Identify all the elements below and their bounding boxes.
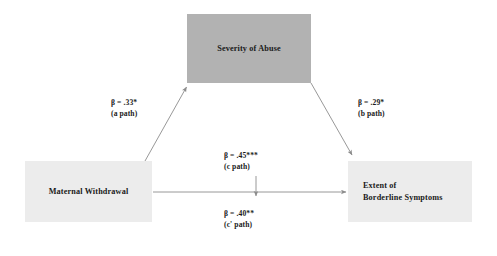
path-b-coefficient: β = .29* xyxy=(358,97,385,108)
mediation-diagram: Severity of Abuse Maternal Withdrawal Ex… xyxy=(0,0,497,256)
path-c-name: (c path) xyxy=(224,161,258,172)
arrow-a-path xyxy=(145,87,187,161)
node-severity-of-abuse: Severity of Abuse xyxy=(187,14,311,83)
node-predictor-label: Maternal Withdrawal xyxy=(49,186,129,198)
path-c-prime-name: (c' path) xyxy=(224,219,254,230)
node-mediator-label: Severity of Abuse xyxy=(217,43,281,55)
path-a-name: (a path) xyxy=(111,108,137,119)
node-outcome-label-line2: Borderline Symptoms xyxy=(363,192,443,204)
node-maternal-withdrawal: Maternal Withdrawal xyxy=(25,161,152,222)
path-c-coefficient: β = .45*** xyxy=(224,150,258,161)
path-a-coefficient: β = .33* xyxy=(111,97,137,108)
path-label-c: β = .45*** (c path) xyxy=(224,150,258,173)
path-c-prime-coefficient: β = .40** xyxy=(224,208,254,219)
arrow-b-path xyxy=(311,83,352,155)
path-label-c-prime: β = .40** (c' path) xyxy=(224,208,254,231)
path-label-a: β = .33* (a path) xyxy=(111,97,137,120)
path-label-b: β = .29* (b path) xyxy=(358,97,385,120)
node-outcome-label-group: Extent of Borderline Symptoms xyxy=(363,180,443,204)
node-outcome-label-line1: Extent of xyxy=(363,180,443,192)
node-borderline-symptoms: Extent of Borderline Symptoms xyxy=(348,161,472,222)
path-b-name: (b path) xyxy=(358,108,385,119)
